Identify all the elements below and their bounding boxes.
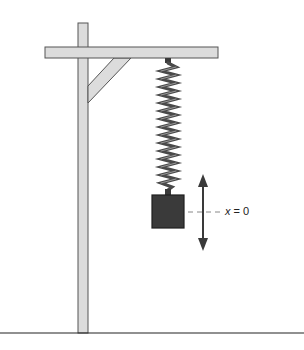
- mass-hook: [165, 189, 171, 195]
- diagonal-brace: [88, 58, 131, 103]
- equilibrium-label: x = 0: [225, 205, 249, 217]
- support-post: [78, 23, 88, 333]
- equilibrium-value: 0: [243, 205, 249, 217]
- variable-x: x: [225, 205, 231, 217]
- equals-sign: =: [234, 205, 240, 217]
- crossbar: [45, 47, 218, 58]
- mass-spring-diagram: [0, 0, 304, 350]
- mass-block: [152, 195, 184, 228]
